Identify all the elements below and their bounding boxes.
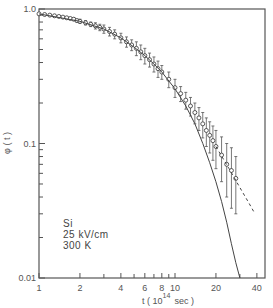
decay-chart: 124681020401.00.10.01t ( 1014sec )φ ( t …	[0, 0, 273, 308]
data-point	[229, 168, 233, 172]
data-point	[204, 128, 208, 132]
x-tick-label: 1	[36, 283, 41, 293]
data-point	[211, 139, 215, 143]
y-tick-label: 0.01	[18, 273, 36, 283]
data-point	[208, 133, 212, 137]
data-point	[184, 98, 188, 102]
x-axis-label: t ( 1014sec )	[142, 292, 194, 306]
plot-annotation: Si25 kV/cm300 K	[63, 218, 109, 251]
y-axis-label: φ ( t )	[2, 132, 12, 154]
x-tick-label: 6	[142, 283, 147, 293]
x-tick-label: 20	[211, 283, 221, 293]
data-point	[201, 122, 205, 126]
y-tick-label: 0.1	[23, 139, 36, 149]
annotation-line: Si	[63, 218, 73, 229]
data-point	[188, 104, 192, 108]
x-tick-label: 2	[77, 283, 82, 293]
data-point	[193, 111, 197, 115]
data-point	[197, 116, 201, 120]
annotation-line: 25 kV/cm	[63, 229, 109, 240]
annotation-line: 300 K	[63, 240, 92, 251]
x-tick-label: 4	[118, 283, 123, 293]
x-tick-label: 40	[252, 283, 262, 293]
y-tick-label: 1.0	[23, 4, 36, 14]
x-tick-label: 10	[170, 283, 180, 293]
